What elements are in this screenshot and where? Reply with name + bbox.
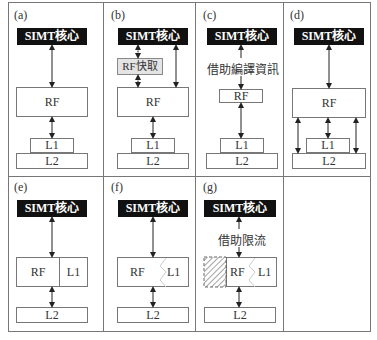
arrows-overlay bbox=[0, 0, 377, 340]
